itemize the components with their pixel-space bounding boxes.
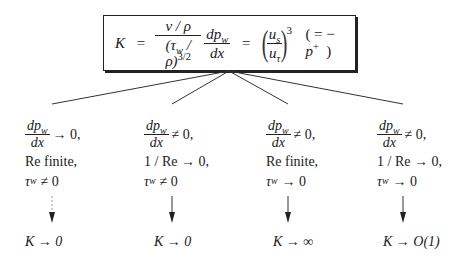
branch-2: dpw dx ≠ 0, 1 / Re → 0, τw≠ 0 — [144, 117, 209, 191]
arrow-head-3 — [285, 212, 291, 223]
branch-1-wall-shear: τw≠ 0 — [25, 171, 81, 191]
branch-3-gradient: dpw dx ≠ 0, — [266, 117, 318, 151]
branch-3-wall-shear: τw→ 0 — [266, 171, 318, 191]
gradient-fraction: dpw dx — [377, 119, 402, 150]
dp-subscript: w — [41, 124, 48, 135]
gradient-relation: ≠ 0, — [405, 125, 427, 144]
branch-4: dpw dx ≠ 0, 1 / Re → 0, τw→ 0 — [377, 117, 442, 191]
branch-4-gradient: dpw dx ≠ 0, — [377, 117, 442, 151]
dp-text: dp — [27, 118, 41, 133]
branch-line-1 — [52, 71, 229, 104]
gradient-numerator: dpw — [377, 119, 402, 135]
branch-1-reynolds: Re finite, — [25, 151, 81, 171]
branch-2-gradient: dpw dx ≠ 0, — [144, 117, 209, 151]
dp-subscript: w — [282, 124, 289, 135]
dp-text: dp — [268, 118, 282, 133]
tau-relation: ≠ 0 — [160, 172, 178, 191]
gradient-numerator: dpw — [144, 119, 169, 135]
branch-line-3 — [229, 71, 288, 104]
dp-subscript: w — [160, 124, 167, 135]
branch-4-reynolds: 1 / Re → 0, — [377, 151, 442, 171]
branch-4-wall-shear: τw→ 0 — [377, 171, 442, 191]
result-2: K → 0 — [154, 234, 191, 250]
result-3: K → ∞ — [273, 234, 313, 250]
branch-3-reynolds: Re finite, — [266, 151, 318, 171]
gradient-relation: → 0, — [53, 125, 81, 144]
gradient-numerator: dpw — [266, 119, 291, 135]
gradient-denominator: dx — [144, 135, 169, 150]
branch-2-reynolds: 1 / Re → 0, — [144, 151, 209, 171]
branch-3: dpw dx ≠ 0, Re finite, τw→ 0 — [266, 117, 318, 191]
tau-relation: → 0 — [282, 172, 307, 191]
branch-1: dpw dx → 0, Re finite, τw≠ 0 — [25, 117, 81, 191]
result-1: K → 0 — [25, 234, 62, 250]
branch-line-4 — [229, 71, 403, 104]
tau-relation: → 0 — [393, 172, 418, 191]
gradient-relation: ≠ 0, — [294, 125, 316, 144]
dp-subscript: w — [393, 124, 400, 135]
gradient-fraction: dpw dx — [144, 119, 169, 150]
arrow-head-1 — [49, 212, 55, 223]
gradient-denominator: dx — [25, 135, 50, 150]
result-4: K → O(1) — [383, 234, 440, 250]
arrow-head-2 — [169, 212, 175, 223]
branch-2-wall-shear: τw≠ 0 — [144, 171, 209, 191]
gradient-numerator: dpw — [25, 119, 50, 135]
dp-text: dp — [146, 118, 160, 133]
gradient-relation: ≠ 0, — [172, 125, 194, 144]
gradient-denominator: dx — [377, 135, 402, 150]
dp-text: dp — [379, 118, 393, 133]
gradient-fraction: dpw dx — [266, 119, 291, 150]
gradient-fraction: dpw dx — [25, 119, 50, 150]
branch-1-gradient: dpw dx → 0, — [25, 117, 81, 151]
gradient-denominator: dx — [266, 135, 291, 150]
arrow-head-4 — [400, 212, 406, 223]
tau-relation: ≠ 0 — [41, 172, 59, 191]
